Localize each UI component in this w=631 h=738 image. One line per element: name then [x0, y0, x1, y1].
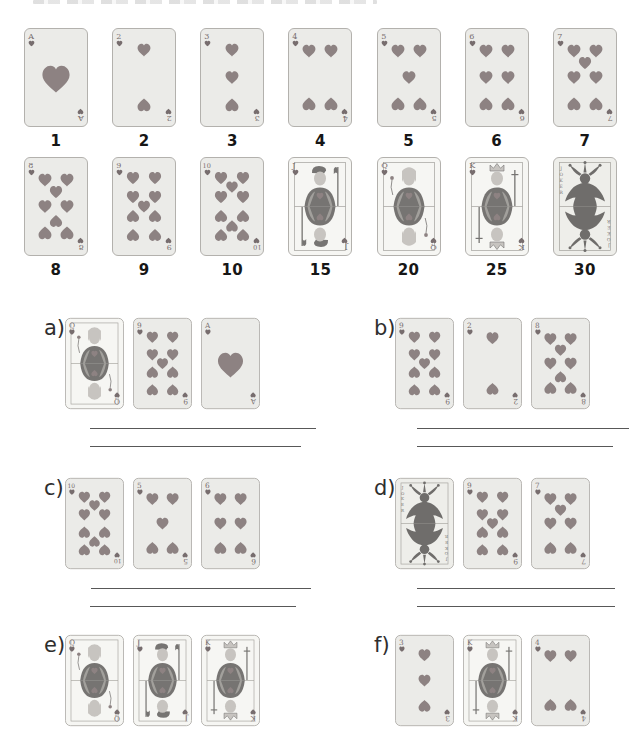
- card-face: 44: [288, 28, 352, 127]
- card-9-hearts: 99: [463, 476, 522, 571]
- worksheet-page: AA1222333444555666777 888999101010 JJ15: [0, 0, 631, 738]
- rank-index: 2: [513, 397, 518, 406]
- card-2-hearts: 22: [112, 28, 176, 127]
- answer-line-a: [90, 428, 316, 429]
- card-j-hearts: JJ: [288, 157, 352, 256]
- rank-index: Q: [69, 321, 75, 330]
- exercise-c: c)10105566: [44, 476, 260, 571]
- rank-index: 3: [445, 714, 450, 723]
- exercise-cards: JOKERJOKER9977: [395, 476, 590, 571]
- exercise-cards: 10105566: [65, 476, 260, 571]
- legend-card-slot: JOKERJOKER30: [553, 157, 617, 279]
- card-q-hearts: QQ: [377, 157, 441, 256]
- rank-index: 7: [581, 557, 586, 566]
- card-4-hearts: 44: [288, 28, 352, 127]
- card-face: 99: [395, 316, 454, 411]
- card-face: QQ: [65, 633, 124, 728]
- card-face: 33: [200, 28, 264, 127]
- card-7-hearts: 77: [553, 28, 617, 127]
- svg-text:E: E: [445, 540, 448, 545]
- card-joker: JOKERJOKER: [395, 476, 454, 571]
- svg-text:O: O: [559, 172, 563, 177]
- legend-card-slot: QQ20: [377, 157, 441, 279]
- card-face: JJ: [133, 633, 192, 728]
- card-points-label: 10: [221, 261, 243, 279]
- svg-text:J: J: [401, 485, 404, 490]
- card-4-hearts: 44: [531, 633, 590, 728]
- card-points-label: 8: [51, 261, 62, 279]
- rank-index: K: [250, 714, 256, 723]
- rank-index: 7: [557, 32, 562, 41]
- exercise-label: d): [374, 478, 393, 499]
- card-face: KK: [463, 633, 522, 728]
- legend-card-slot: JJ15: [288, 157, 352, 279]
- rank-index: 10: [67, 482, 75, 489]
- card-face: 1010: [200, 157, 264, 256]
- rank-index: K: [205, 638, 211, 647]
- card-5-hearts: 55: [133, 476, 192, 571]
- rank-index: 7: [535, 481, 540, 490]
- rank-index: 9: [183, 397, 188, 406]
- rank-index: 5: [183, 557, 188, 566]
- card-face: 88: [24, 157, 88, 256]
- rank-index: A: [27, 32, 34, 41]
- legend-card-slot: 333: [200, 28, 264, 150]
- card-face: 99: [112, 157, 176, 256]
- rank-index: 4: [343, 114, 348, 123]
- rank-index: 2: [167, 114, 172, 123]
- card-points-label: 3: [227, 132, 238, 150]
- exercise-label: a): [44, 318, 63, 339]
- legend-card-slot: 888: [24, 157, 88, 279]
- rank-index: 3: [205, 32, 210, 41]
- rank-index: K: [517, 243, 524, 252]
- exercise-label: c): [44, 478, 63, 499]
- answer-line-b: [417, 446, 613, 447]
- legend-card-slot: 666: [465, 28, 529, 150]
- rank-index: 6: [519, 114, 524, 123]
- rank-index: 4: [535, 638, 540, 647]
- rank-index: 9: [467, 481, 472, 490]
- card-k-hearts: KK: [201, 633, 260, 728]
- answer-line-c: [90, 606, 296, 607]
- rank-index: 8: [535, 321, 540, 330]
- card-6-hearts: 66: [201, 476, 260, 571]
- rank-index: Q: [114, 714, 120, 723]
- card-6-hearts: 66: [465, 28, 529, 127]
- card-8-hearts: 88: [531, 316, 590, 411]
- card-q-hearts: QQ: [65, 316, 124, 411]
- svg-text:E: E: [560, 184, 563, 189]
- card-points-label: 20: [398, 261, 420, 279]
- card-face: 22: [112, 28, 176, 127]
- exercise-cards: QQ JJ: [65, 633, 260, 728]
- answer-line-d: [417, 606, 615, 607]
- card-face: 66: [201, 476, 260, 571]
- exercise-cards: 992288: [395, 316, 590, 411]
- rank-index: 8: [28, 161, 33, 170]
- exercise-d: d) JOKERJOKER9977: [374, 476, 590, 571]
- legend-card-slot: 777: [553, 28, 617, 150]
- answer-line-c: [91, 588, 311, 589]
- legend-card-slot: KK25: [465, 157, 529, 279]
- rank-index: J: [185, 714, 189, 723]
- cropped-title-remnant: [33, 0, 377, 4]
- exercise-label: e): [44, 635, 63, 656]
- svg-text:E: E: [607, 225, 610, 230]
- rank-index: 6: [205, 481, 210, 490]
- card-points-label: 4: [315, 132, 326, 150]
- card-face: 22: [463, 316, 522, 411]
- rank-index: 9: [167, 243, 172, 252]
- svg-text:J: J: [559, 166, 562, 171]
- card-face: 77: [531, 476, 590, 571]
- card-face: JOKERJOKER: [553, 157, 617, 256]
- card-9-hearts: 99: [112, 157, 176, 256]
- card-a-hearts: AA: [24, 28, 88, 127]
- card-face: 88: [531, 316, 590, 411]
- card-2-hearts: 22: [463, 316, 522, 411]
- rank-index: 9: [137, 321, 142, 330]
- rank-index: K: [467, 638, 473, 647]
- rank-index: 5: [381, 32, 386, 41]
- card-5-hearts: 55: [377, 28, 441, 127]
- card-q-hearts: QQ: [65, 633, 124, 728]
- card-face: KK: [465, 157, 529, 256]
- card-points-label: 5: [403, 132, 414, 150]
